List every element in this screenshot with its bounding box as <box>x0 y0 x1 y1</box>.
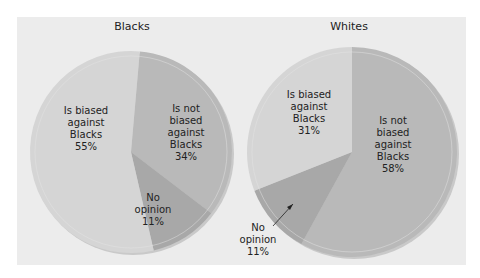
pie-whites <box>247 47 459 259</box>
label-whites-biased: Is biased against Blacks 31% <box>287 89 331 137</box>
chart-title-whites: Whites <box>330 20 368 33</box>
label-whites-not-biased: Is not biased against Blacks 58% <box>375 115 412 175</box>
label-whites-no-opinion: No opinion 11% <box>240 222 277 258</box>
chart-title-blacks: Blacks <box>114 20 150 33</box>
label-blacks-no-opinion: No opinion 11% <box>135 192 172 228</box>
label-blacks-not-biased: Is not biased against Blacks 34% <box>168 103 205 163</box>
label-blacks-biased: Is biased against Blacks 55% <box>64 105 108 153</box>
